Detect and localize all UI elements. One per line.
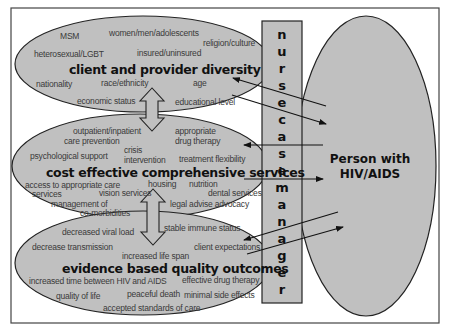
nurse-letter: n xyxy=(262,213,302,230)
diversity-title: client and provider diversity xyxy=(69,62,261,77)
label-comorbidities: co-morbidities xyxy=(80,209,130,218)
nurse-letter: u xyxy=(262,43,302,60)
label-outpatient: outpatient/inpatient xyxy=(73,127,141,136)
nurse-letter: a xyxy=(262,196,302,213)
label-educational: educational level xyxy=(175,98,235,107)
label-care-prevention: care prevention xyxy=(64,137,120,146)
label-immune: stable immune status xyxy=(164,224,240,233)
label-treatment-flex: treatment flexibility xyxy=(179,155,245,164)
nurse-letter: s xyxy=(262,77,302,94)
label-race: race/ethnicity xyxy=(101,79,148,88)
person-label-line1: Person with xyxy=(320,152,420,167)
label-drug-therapy: drug therapy xyxy=(175,137,220,146)
label-quality-of-life: quality of life xyxy=(56,292,100,301)
label-life-span: increased life span xyxy=(122,252,189,261)
label-religion: religion/culture xyxy=(203,39,255,48)
label-nationality: nationality xyxy=(36,80,72,89)
label-msm: MSM xyxy=(60,32,79,41)
label-crisis: crisis xyxy=(124,146,142,155)
label-appropriate: appropriate xyxy=(175,127,216,136)
nurse-letter: r xyxy=(262,60,302,77)
label-services: services xyxy=(32,190,62,199)
label-hetero: heterosexual/LGBT xyxy=(34,50,104,59)
nurse-letter: m xyxy=(262,179,302,196)
label-vision: vision services xyxy=(99,189,151,198)
label-peaceful-death: peaceful death xyxy=(127,290,180,299)
label-client-expectations: client expectations xyxy=(194,243,260,252)
nurse-letter: g xyxy=(262,247,302,264)
nurse-letter: n xyxy=(262,26,302,43)
nurse-letter: e xyxy=(262,162,302,179)
nurse-letter: a xyxy=(262,128,302,145)
care-model-diagram: MSM women/men/adolescents religion/cultu… xyxy=(0,0,450,330)
label-housing: housing xyxy=(148,180,176,189)
label-women-men: women/men/adolescents xyxy=(109,29,199,38)
label-side-effects: minimal side effects xyxy=(184,291,254,300)
nurse-letter: e xyxy=(262,94,302,111)
label-viral-load: decreased viral load xyxy=(62,228,134,237)
label-intervention: intervention xyxy=(124,156,166,165)
label-hiv-aids-time: increased time between HIV and AIDS xyxy=(29,277,167,286)
nurse-letter: c xyxy=(262,111,302,128)
nurse-letter: e xyxy=(262,264,302,281)
label-insured: insured/uninsured xyxy=(137,49,201,58)
label-economic: economic status xyxy=(77,97,135,106)
label-transmission: decrease transmission xyxy=(32,243,113,252)
label-psychological: psychological support xyxy=(30,152,108,161)
person-label: Person with HIV/AIDS xyxy=(320,152,420,182)
label-dental: dental services xyxy=(208,189,262,198)
nurse-letter: s xyxy=(262,145,302,162)
outcomes-title: evidence based quality outcomes xyxy=(62,261,289,276)
label-standards-of-care: accepted standards of care xyxy=(103,304,200,313)
label-effective-drug: effective drug therapy xyxy=(182,276,259,285)
nurse-letter: r xyxy=(262,281,302,298)
nurse-letter: a xyxy=(262,230,302,247)
label-legal: legal advise advocacy xyxy=(170,200,249,209)
person-label-line2: HIV/AIDS xyxy=(320,167,420,182)
label-age: age xyxy=(193,79,207,88)
